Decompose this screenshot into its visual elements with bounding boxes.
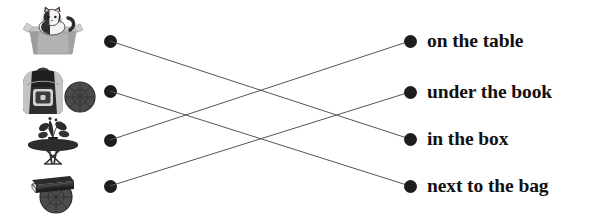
picture-cat-in-box[interactable]: [0, 6, 105, 60]
matching-worksheet: on the table under the book in the box n…: [0, 0, 603, 218]
connector-backpack-to-next-to-the-bag[interactable]: [110, 91, 410, 186]
left-dot-backpack-and-ball[interactable]: [104, 85, 117, 98]
backpack-and-ball-icon: [9, 63, 97, 117]
phrase-label-next-to-the-bag: next to the bag: [427, 176, 548, 196]
connector-cat-in-box-to-in-the-box[interactable]: [110, 41, 410, 139]
right-dot-in-the-box[interactable]: [404, 133, 417, 146]
book-on-ball-icon: [16, 162, 90, 216]
phrase-label-in-the-box: in the box: [427, 129, 508, 149]
right-dot-on-the-table[interactable]: [404, 35, 417, 48]
table-with-plant-icon: [16, 114, 90, 168]
phrase-item-next-to-the-bag[interactable]: next to the bag: [404, 173, 548, 199]
phrase-item-under-the-book[interactable]: under the book: [404, 79, 552, 105]
phrase-column: on the table under the book in the box n…: [404, 0, 603, 218]
connector-table-to-on-the-table[interactable]: [110, 41, 410, 140]
picture-table-with-plant[interactable]: [0, 114, 105, 168]
phrase-label-under-the-book: under the book: [427, 82, 552, 102]
phrase-item-on-the-table[interactable]: on the table: [404, 28, 523, 54]
picture-backpack-and-ball[interactable]: [0, 63, 105, 117]
cat-in-box-icon: [16, 6, 90, 60]
phrase-label-on-the-table: on the table: [427, 31, 523, 51]
left-dot-cat-in-box[interactable]: [104, 35, 117, 48]
picture-column: [0, 0, 105, 218]
right-dot-next-to-the-bag[interactable]: [404, 180, 417, 193]
left-dot-book-on-ball[interactable]: [104, 180, 117, 193]
phrase-item-in-the-box[interactable]: in the box: [404, 126, 508, 152]
picture-book-on-ball[interactable]: [0, 162, 105, 216]
right-dot-under-the-book[interactable]: [404, 86, 417, 99]
left-dot-table-with-plant[interactable]: [104, 134, 117, 147]
connector-book-to-under-the-book[interactable]: [110, 92, 410, 186]
